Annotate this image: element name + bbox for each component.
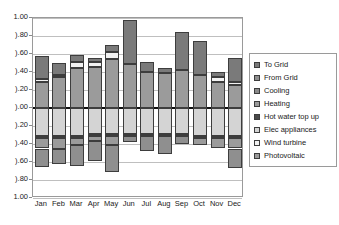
bar-segment[interactable] — [70, 108, 84, 136]
x-axis-tick-label: Jul — [138, 199, 156, 209]
bar-segment[interactable] — [193, 75, 207, 108]
bar-segment[interactable] — [140, 136, 154, 151]
bar-segment[interactable] — [228, 82, 242, 85]
bar-segment[interactable] — [35, 138, 49, 149]
bar-column[interactable] — [228, 18, 242, 196]
bar-segment[interactable] — [175, 70, 189, 108]
bar-segment[interactable] — [228, 149, 242, 169]
y-axis-tick-mark — [29, 197, 32, 198]
chart-screenshot: 1.00).80).60).40).20).00).20).40).60).80… — [0, 0, 339, 225]
x-axis-tick-label: Apr — [85, 199, 103, 209]
bar-column[interactable] — [175, 18, 189, 196]
bar-segment[interactable] — [88, 108, 102, 134]
bar-segment[interactable] — [70, 55, 84, 62]
bar-segment[interactable] — [211, 108, 225, 136]
bar-column[interactable] — [52, 18, 66, 196]
bar-column[interactable] — [35, 18, 49, 196]
bar-segment[interactable] — [211, 82, 225, 108]
legend-item[interactable]: Cooling — [254, 84, 333, 97]
legend-item-label: Hot water top up — [264, 112, 319, 121]
bar-segment[interactable] — [123, 64, 137, 108]
bar-segment[interactable] — [123, 20, 137, 64]
bar-segment[interactable] — [158, 68, 172, 73]
y-axis: 1.00).80).60).40).20).00).20).40).60).80… — [0, 17, 32, 197]
bar-segment[interactable] — [105, 108, 119, 134]
legend-item-label: Wind turbine — [264, 138, 306, 147]
bar-segment[interactable] — [88, 58, 102, 63]
y-axis-tick-label: ).80 — [15, 31, 28, 39]
bar-segment[interactable] — [35, 56, 49, 79]
bar-segment[interactable] — [70, 145, 84, 166]
bar-segment[interactable] — [175, 108, 189, 134]
x-axis-tick-label: Aug — [155, 199, 173, 209]
legend-swatch-icon — [254, 62, 260, 68]
bar-segment[interactable] — [52, 75, 66, 78]
bar-column[interactable] — [140, 18, 154, 196]
bar-segment[interactable] — [211, 77, 225, 82]
bar-segment[interactable] — [35, 108, 49, 136]
bar-segment[interactable] — [123, 136, 137, 142]
legend-item-label: Heating — [264, 99, 290, 108]
bar-segment[interactable] — [123, 108, 137, 134]
bar-segment[interactable] — [228, 108, 242, 136]
bar-column[interactable] — [158, 18, 172, 196]
legend-swatch-icon — [254, 140, 260, 146]
bar-segment[interactable] — [105, 52, 119, 59]
bar-segment[interactable] — [175, 136, 189, 144]
x-axis-tick-label: Jan — [32, 199, 50, 209]
bar-segment[interactable] — [35, 149, 49, 168]
bar-segment[interactable] — [158, 136, 172, 154]
bar-segment[interactable] — [52, 149, 66, 163]
legend-item[interactable]: Heating — [254, 97, 333, 110]
bar-segment[interactable] — [158, 73, 172, 108]
chart-legend: To GridFrom GridCoolingHeatingHot water … — [249, 53, 337, 167]
legend-item[interactable]: Hot water top up — [254, 110, 333, 123]
bar-segment[interactable] — [105, 136, 119, 145]
bar-column[interactable] — [193, 18, 207, 196]
bar-segment[interactable] — [175, 32, 189, 70]
bar-segment[interactable] — [140, 108, 154, 134]
bar-column[interactable] — [123, 18, 137, 196]
bar-segment[interactable] — [70, 138, 84, 145]
bar-segment[interactable] — [88, 62, 102, 67]
legend-item-label: To Grid — [264, 60, 288, 69]
legend-item[interactable]: Elec appliances — [254, 123, 333, 136]
bar-segment[interactable] — [193, 138, 207, 145]
bar-segment[interactable] — [52, 63, 66, 75]
legend-item-label: Photovoltaic — [264, 151, 305, 160]
bar-segment[interactable] — [228, 58, 242, 82]
bar-segment[interactable] — [193, 41, 207, 74]
bar-segment[interactable] — [35, 79, 49, 82]
bar-segment[interactable] — [228, 85, 242, 108]
legend-item[interactable]: Photovoltaic — [254, 149, 333, 162]
bar-segment[interactable] — [52, 77, 66, 108]
y-axis-tick-label: ).00 — [15, 103, 28, 111]
bar-segment[interactable] — [88, 67, 102, 108]
bar-segment[interactable] — [140, 72, 154, 108]
bar-segment[interactable] — [158, 108, 172, 134]
bar-segment[interactable] — [88, 141, 102, 161]
bar-segment[interactable] — [140, 62, 154, 72]
bar-segment[interactable] — [105, 59, 119, 108]
bar-column[interactable] — [211, 18, 225, 196]
bar-segment[interactable] — [211, 72, 225, 77]
bar-segment[interactable] — [70, 62, 84, 68]
x-axis-tick-label: Oct — [190, 199, 208, 209]
bar-segment[interactable] — [228, 138, 242, 149]
bar-segment[interactable] — [52, 138, 66, 150]
legend-item[interactable]: To Grid — [254, 58, 333, 71]
legend-item[interactable]: From Grid — [254, 71, 333, 84]
bar-segment[interactable] — [193, 108, 207, 136]
bar-segment[interactable] — [105, 145, 119, 172]
legend-item[interactable]: Wind turbine — [254, 136, 333, 149]
bar-segment[interactable] — [211, 138, 225, 149]
bar-segment[interactable] — [52, 108, 66, 136]
bar-segment[interactable] — [35, 82, 49, 108]
x-axis-tick-label: Dec — [225, 199, 243, 209]
bar-column[interactable] — [105, 18, 119, 196]
bar-segment[interactable] — [70, 68, 84, 108]
bar-column[interactable] — [70, 18, 84, 196]
bar-segment[interactable] — [105, 45, 119, 52]
legend-item-label: Cooling — [264, 86, 289, 95]
bar-column[interactable] — [88, 18, 102, 196]
